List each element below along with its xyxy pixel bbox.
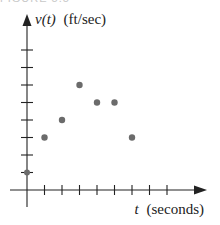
x-axis-label-unit: (seconds) [147, 201, 204, 218]
data-points [24, 82, 135, 176]
y-axis-arrow-icon [23, 14, 32, 26]
data-point [111, 99, 117, 105]
axes [10, 14, 207, 207]
y-axis-label: v(t) (ft/sec) [35, 11, 106, 28]
x-axis-arrow-icon [194, 186, 207, 195]
data-point [129, 134, 135, 140]
data-point [59, 117, 65, 123]
scatter-plot: v(t) (ft/sec) t (seconds) [0, 0, 220, 225]
x-axis-label: t (seconds) [135, 201, 204, 218]
y-axis-label-unit: (ft/sec) [64, 11, 106, 28]
data-point [76, 82, 82, 88]
data-point [24, 170, 30, 176]
data-point [94, 99, 100, 105]
data-point [41, 134, 47, 140]
y-axis-label-var: v(t) [35, 11, 56, 28]
x-axis-label-var: t [135, 201, 140, 217]
